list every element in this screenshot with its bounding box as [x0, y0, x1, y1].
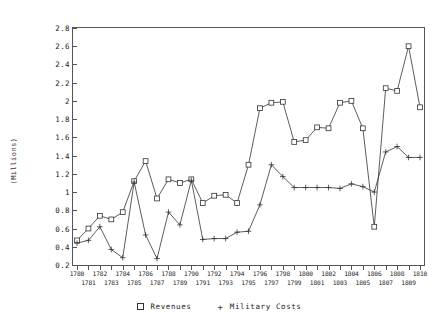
x-axis-tick-label: 1784 — [115, 270, 130, 277]
x-axis-tick-mark — [237, 266, 238, 270]
x-axis-tick-label: 1798 — [276, 270, 291, 277]
data-point-marker-plus — [417, 155, 423, 161]
x-axis-tick-mark — [329, 266, 330, 270]
plot-area — [72, 27, 425, 266]
y-axis-tick-mark — [72, 137, 77, 138]
data-point-marker-plus — [211, 236, 217, 242]
y-axis-title: (Millions) — [6, 106, 22, 216]
data-point-marker-plus — [303, 185, 309, 191]
x-axis-tick-mark — [397, 266, 398, 270]
data-point-marker-square — [86, 226, 91, 231]
x-axis-tick-label: 1786 — [138, 270, 153, 277]
x-axis-tick-mark — [134, 266, 135, 270]
x-axis-tick-label: 1803 — [333, 279, 348, 286]
y-axis-tick-mark — [72, 119, 77, 120]
x-axis-tick-mark — [203, 266, 204, 270]
x-axis-tick-mark — [88, 266, 89, 270]
x-axis-tick-label: 1808 — [390, 270, 405, 277]
x-axis-tick-mark — [420, 266, 421, 270]
data-point-marker-square — [315, 125, 320, 130]
y-axis-tick-label: 1.2 — [44, 169, 70, 178]
x-axis-tick-label: 1796 — [253, 270, 268, 277]
data-point-marker-square — [372, 224, 377, 229]
series-line — [77, 46, 420, 240]
y-axis-tick-label: 2.2 — [44, 78, 70, 87]
x-axis-tick-label: 1800 — [298, 270, 313, 277]
x-axis-tick-label: 1788 — [161, 270, 176, 277]
x-axis-tick-label: 1795 — [241, 279, 256, 286]
x-axis-tick-mark — [306, 266, 307, 270]
data-point-marker-plus — [246, 228, 252, 234]
legend-item-label: Military Costs — [230, 302, 302, 311]
data-point-marker-square — [212, 193, 217, 198]
x-axis-tick-mark — [77, 266, 78, 270]
y-axis-tick-mark — [72, 229, 77, 230]
data-point-marker-square — [109, 217, 114, 222]
x-axis-tick-label: 1797 — [264, 279, 279, 286]
y-axis-tick-label: 0.8 — [44, 206, 70, 215]
data-point-marker-square — [292, 140, 297, 145]
data-point-marker-square — [166, 177, 171, 182]
x-axis-tick-mark — [340, 266, 341, 270]
data-point-marker-square — [143, 159, 148, 164]
x-axis-tick-mark — [317, 266, 318, 270]
data-point-marker-plus — [120, 255, 126, 261]
x-axis-tick-mark — [180, 266, 181, 270]
y-axis-tick-label: 0.4 — [44, 242, 70, 251]
data-point-marker-plus — [337, 186, 343, 192]
data-point-marker-plus — [234, 229, 240, 235]
legend-item[interactable]: +Military Costs — [217, 302, 301, 311]
y-axis-tick-mark — [72, 64, 77, 65]
data-point-marker-square — [258, 106, 263, 111]
data-point-marker-plus — [223, 236, 229, 242]
x-axis-tick-label: 1780 — [70, 270, 85, 277]
x-axis-tick-label: 1785 — [127, 279, 142, 286]
data-point-marker-square — [303, 138, 308, 143]
data-point-marker-plus — [314, 185, 320, 191]
data-point-marker-square — [349, 99, 354, 104]
data-point-marker-plus — [143, 232, 149, 238]
x-axis-tick-label: 1799 — [287, 279, 302, 286]
x-axis-tick-mark — [374, 266, 375, 270]
data-point-marker-square — [97, 213, 102, 218]
x-axis-tick-label: 1781 — [81, 279, 96, 286]
data-point-marker-square — [383, 86, 388, 91]
x-axis-tick-label: 1793 — [218, 279, 233, 286]
x-axis-tick-label: 1782 — [93, 270, 108, 277]
x-axis-tick-label: 1804 — [344, 270, 359, 277]
x-axis-tick-mark — [146, 266, 147, 270]
y-axis-tick-label: 2 — [44, 96, 70, 105]
x-axis-tick-label: 1792 — [207, 270, 222, 277]
x-axis-tick-mark — [191, 266, 192, 270]
data-point-marker-square — [418, 105, 423, 110]
x-axis-tick-label: 1805 — [356, 279, 371, 286]
x-axis-tick-label: 1787 — [150, 279, 165, 286]
x-axis-tick-mark — [100, 266, 101, 270]
x-axis-tick-label: 1809 — [401, 279, 416, 286]
y-axis-tick-label: 0.2 — [44, 261, 70, 270]
y-axis-tick-mark — [72, 174, 77, 175]
x-axis-tick-label: 1783 — [104, 279, 119, 286]
y-axis-tick-labels: 2.82.62.42.221.81.61.41.210.80.60.40.2 — [40, 0, 70, 324]
y-axis-tick-label: 2.4 — [44, 60, 70, 69]
y-axis-tick-mark — [72, 247, 77, 248]
y-axis-title-text: (Millions) — [10, 137, 18, 184]
y-axis-tick-mark — [72, 156, 77, 157]
data-point-marker-square — [155, 196, 160, 201]
x-axis-tick-label: 1801 — [310, 279, 325, 286]
x-axis-tick-mark — [168, 266, 169, 270]
data-point-marker-plus — [360, 184, 366, 190]
x-axis-tick-label: 1789 — [173, 279, 188, 286]
legend-item[interactable]: Revenues — [137, 302, 192, 311]
data-point-marker-plus — [154, 256, 160, 262]
data-point-marker-plus — [326, 185, 332, 191]
x-axis-tick-mark — [271, 266, 272, 270]
data-point-marker-square — [223, 192, 228, 197]
data-point-marker-square — [406, 44, 411, 49]
x-axis-tick-mark — [351, 266, 352, 270]
y-axis-tick-label: 0.6 — [44, 224, 70, 233]
data-point-marker-square — [269, 100, 274, 105]
legend-item-label: Revenues — [151, 302, 192, 311]
y-axis-tick-label: 2.6 — [44, 42, 70, 51]
x-axis-tick-mark — [111, 266, 112, 270]
